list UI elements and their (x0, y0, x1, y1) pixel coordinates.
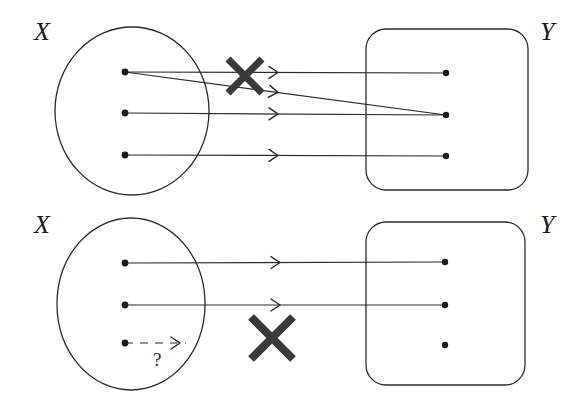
mapping-line (125, 113, 446, 115)
codomain-set-label: Y (540, 210, 557, 239)
diagram-canvas: XYXY? (0, 0, 582, 410)
codomain-element-dot-y1 (443, 70, 449, 76)
unknown-target-question-mark: ? (153, 349, 161, 370)
codomain-set-label: Y (540, 17, 557, 46)
domain-element-dot-x2 (122, 302, 129, 309)
domain-element-dot-x3 (122, 340, 129, 347)
panels-layer: XYXY? (33, 17, 557, 390)
mapping-arrow-x1-to-y1 (125, 257, 445, 269)
mapping-line (125, 262, 445, 263)
mapping-arrow-x3-to-y3 (125, 149, 446, 161)
mapping-line (125, 72, 446, 73)
codomain-element-dot-y1 (442, 259, 448, 265)
mapping-arrow-x2-to-y2 (125, 299, 445, 311)
function-diagram-figure: XYXY? (0, 0, 582, 410)
invalid-function-cross-mark (251, 317, 293, 359)
codomain-set-rect (366, 29, 528, 190)
mapping-arrow-x3-to-unknown (125, 337, 186, 349)
domain-element-dot-x1 (122, 69, 129, 76)
panel-top: XY (33, 17, 557, 195)
mapping-arrow-x1-to-y2 (125, 72, 446, 115)
codomain-element-dot-y3 (443, 153, 449, 159)
domain-element-dot-x1 (122, 260, 129, 267)
domain-set-ellipse (55, 27, 209, 195)
domain-element-dot-x3 (122, 152, 129, 159)
mapping-arrow-x2-to-y3 (125, 108, 446, 120)
domain-set-label: X (33, 210, 51, 239)
codomain-element-dot-y2 (443, 112, 449, 118)
mapping-arrow-x1-to-y1 (125, 66, 446, 78)
panel-bottom: XY? (33, 210, 557, 390)
mapping-line (125, 155, 446, 156)
codomain-element-dot-y3 (442, 342, 448, 348)
domain-set-label: X (33, 17, 51, 46)
mapping-line (125, 72, 446, 115)
domain-set-ellipse (57, 218, 205, 390)
domain-element-dot-x2 (122, 110, 129, 117)
codomain-element-dot-y2 (442, 302, 448, 308)
